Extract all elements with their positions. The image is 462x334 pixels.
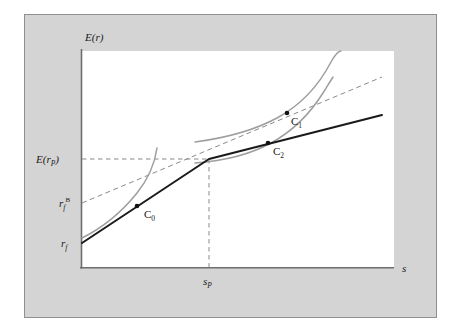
data-point-c1 bbox=[285, 111, 290, 116]
x-axis-label: s bbox=[402, 262, 406, 274]
figure-root: C0 C1 C2 E(r) s E(rP) rfB rf sP bbox=[0, 0, 462, 334]
y-tick-label-rfb: rfB bbox=[59, 196, 70, 212]
chart-svg: C0 C1 C2 E(r) s E(rP) rfB rf sP bbox=[25, 15, 438, 319]
y-tick-label-rf: rf bbox=[61, 237, 68, 252]
data-point-c2 bbox=[266, 141, 271, 146]
data-point-c0 bbox=[135, 204, 140, 209]
plot-area-background bbox=[81, 51, 394, 268]
figure-panel: C0 C1 C2 E(r) s E(rP) rfB rf sP bbox=[24, 14, 437, 318]
y-tick-label-erp: E(rP) bbox=[35, 153, 59, 168]
y-axis-label: E(r) bbox=[84, 31, 104, 44]
x-tick-label-sp: sP bbox=[203, 275, 212, 290]
